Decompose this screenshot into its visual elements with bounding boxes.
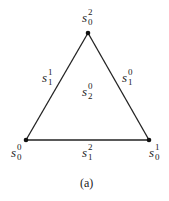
label-sub: 2 — [88, 92, 93, 101]
vertex-top — [86, 31, 91, 36]
vertex-bottom-right-label: s10 — [149, 145, 162, 163]
edge-bottom-label: s21 — [82, 145, 95, 163]
label-sub: 0 — [155, 153, 160, 162]
label-sub: 1 — [128, 78, 133, 87]
label-base: s — [42, 70, 47, 85]
edge-right-label: s01 — [122, 70, 135, 88]
edge-left — [26, 33, 88, 140]
vertex-bottom-left-label: s00 — [11, 145, 24, 163]
label-sub: 1 — [88, 153, 93, 162]
label-sup: 1 — [48, 68, 53, 77]
label-base: s — [82, 145, 87, 160]
figure-caption: (a) — [80, 176, 93, 191]
label-base: s — [122, 70, 127, 85]
label-sub: 0 — [88, 18, 93, 27]
edge-right — [88, 33, 149, 140]
label-sup: 2 — [88, 8, 93, 17]
label-sub: 0 — [17, 153, 22, 162]
label-sup: 0 — [128, 68, 133, 77]
vertex-top-label: s20 — [82, 10, 95, 28]
label-sup: 2 — [88, 143, 93, 152]
edge-left-label: s11 — [42, 70, 55, 88]
label-sup: 0 — [88, 82, 93, 91]
label-base: s — [82, 84, 87, 99]
label-sup: 1 — [155, 143, 160, 152]
label-base: s — [11, 145, 16, 160]
vertex-bottom-right — [147, 138, 152, 143]
label-base: s — [82, 10, 87, 25]
label-sub: 1 — [48, 78, 53, 87]
face-label: s02 — [82, 84, 95, 102]
label-base: s — [149, 145, 154, 160]
label-sup: 0 — [17, 143, 22, 152]
vertex-bottom-left — [24, 138, 29, 143]
